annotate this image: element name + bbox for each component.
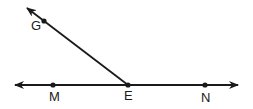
label-e: E [124, 88, 133, 103]
point-g [41, 18, 46, 23]
label-n: N [201, 90, 210, 105]
point-n [202, 82, 207, 87]
point-m [50, 82, 55, 87]
label-m: M [49, 89, 60, 104]
label-g: G [31, 18, 41, 33]
geometry-diagram: G M E N [0, 0, 253, 109]
point-e [125, 82, 130, 87]
